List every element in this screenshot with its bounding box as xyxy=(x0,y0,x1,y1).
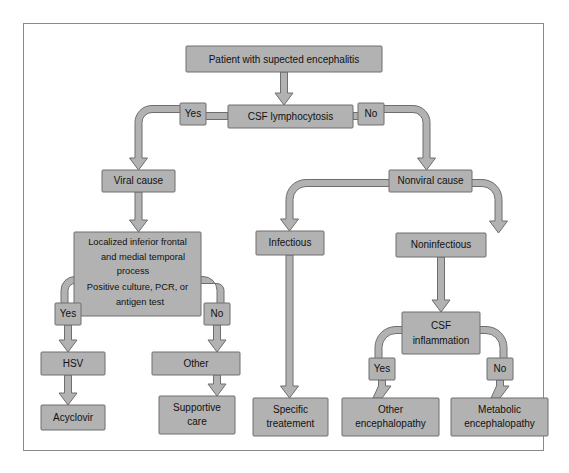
node-csf-lymphocytosis-label: CSF lymphocytosis xyxy=(248,111,334,122)
branch-label-localized-yes: Yes xyxy=(55,303,81,325)
node-supportive-care-line1: Supportive xyxy=(173,402,221,413)
node-other-label: Other xyxy=(183,358,209,369)
node-localized-criteria-line3: process xyxy=(117,266,150,276)
node-csf-inflammation: CSF inflammation xyxy=(402,312,480,354)
branch-label-inflammation-yes: Yes xyxy=(369,358,395,380)
node-acyclovir: Acyclovir xyxy=(41,405,105,430)
node-start: Patient with supected encephalitis xyxy=(186,46,382,72)
branch-label-inflammation-no-text: No xyxy=(494,363,507,374)
node-noninfectious-label: Noninfectious xyxy=(411,239,472,250)
node-localized-criteria: Localized inferior frontal and medial te… xyxy=(74,232,201,316)
branch-label-localized-no: No xyxy=(204,303,230,325)
edge-no-to-other xyxy=(208,325,226,352)
node-specific-treatment-line1: Specific xyxy=(273,404,308,415)
node-csf-inflammation-line2: inflammation xyxy=(413,335,470,346)
edge-yes-to-hsv xyxy=(59,325,77,352)
node-csf-inflammation-line1: CSF xyxy=(431,320,451,331)
node-hsv-label: HSV xyxy=(63,358,84,369)
node-localized-criteria-line4: Positive culture, PCR, or xyxy=(87,282,188,292)
edge-no-to-nonviral xyxy=(383,106,436,171)
edge-nonviral-to-noninfectious xyxy=(470,180,508,234)
node-acyclovir-label: Acyclovir xyxy=(53,412,94,423)
node-other: Other xyxy=(152,352,240,375)
node-metabolic-encephalopathy-line1: Metabolic xyxy=(478,404,521,415)
node-specific-treatment-line2: treatement xyxy=(267,418,315,429)
edge-start-to-csf xyxy=(275,72,293,105)
node-metabolic-encephalopathy: Metabolic encephalopathy xyxy=(451,398,548,436)
node-hsv: HSV xyxy=(41,352,105,375)
edge-yes-to-viral xyxy=(130,106,183,171)
node-noninfectious: Noninfectious xyxy=(396,233,486,257)
edge-infectious-to-specific xyxy=(281,255,299,398)
branch-label-csf-yes-text: Yes xyxy=(185,108,201,119)
node-nonviral-cause: Nonviral cause xyxy=(389,170,472,192)
flowchart-root: Patient with supected encephalitis CSF l… xyxy=(0,0,569,473)
edge-nonviral-to-infectious xyxy=(281,180,392,232)
node-infectious-label: Infectious xyxy=(269,237,312,248)
node-infectious: Infectious xyxy=(256,231,324,255)
node-other-encephalopathy: Other encephalopathy xyxy=(342,398,439,436)
node-specific-treatment: Specific treatement xyxy=(253,398,328,436)
branch-label-localized-yes-text: Yes xyxy=(60,308,76,319)
node-supportive-care: Supportive care xyxy=(159,396,235,434)
branch-label-csf-no: No xyxy=(358,103,384,125)
node-viral-cause: Viral cause xyxy=(102,170,175,192)
node-localized-criteria-line5: antigen test xyxy=(116,297,164,307)
edge-yes-to-other-encephalopathy xyxy=(373,380,391,398)
edge-hsv-to-acyclovir xyxy=(59,375,77,405)
node-viral-cause-label: Viral cause xyxy=(114,175,164,186)
node-metabolic-encephalopathy-line2: encephalopathy xyxy=(464,418,535,429)
node-supportive-care-line2: care xyxy=(187,416,207,427)
branch-label-localized-no-text: No xyxy=(211,308,224,319)
node-csf-lymphocytosis: CSF lymphocytosis xyxy=(228,105,353,128)
node-other-encephalopathy-line1: Other xyxy=(378,404,404,415)
node-nonviral-cause-label: Nonviral cause xyxy=(397,175,464,186)
edge-noninfectious-to-inflammation xyxy=(432,257,450,312)
edge-other-to-supportive xyxy=(208,375,226,396)
branch-label-inflammation-yes-text: Yes xyxy=(374,363,390,374)
edge-viral-to-localized xyxy=(130,192,148,232)
node-other-encephalopathy-line2: encephalopathy xyxy=(355,418,426,429)
branch-label-inflammation-no: No xyxy=(487,358,513,380)
edge-no-to-metabolic-encephalopathy xyxy=(491,380,509,398)
node-localized-criteria-line1: Localized inferior frontal xyxy=(88,237,187,247)
node-localized-criteria-line2: and medial temporal xyxy=(101,252,185,262)
branch-label-csf-yes: Yes xyxy=(180,103,206,125)
flowchart-canvas: Patient with supected encephalitis CSF l… xyxy=(0,0,569,473)
branch-label-csf-no-text: No xyxy=(365,108,378,119)
edge-csf-to-yes xyxy=(205,113,228,120)
node-start-label: Patient with supected encephalitis xyxy=(209,54,360,65)
